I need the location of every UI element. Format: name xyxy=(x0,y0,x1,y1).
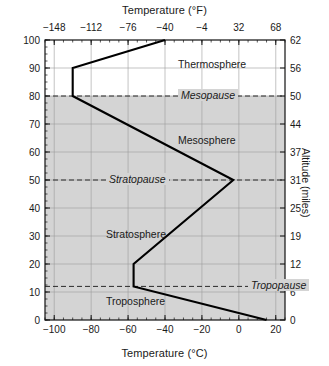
top-tick-label: −4 xyxy=(196,22,207,33)
right-tick-label: 19 xyxy=(290,231,316,242)
right-tick-label: 44 xyxy=(290,119,316,130)
right-tick-label: 0 xyxy=(290,315,316,326)
bottom-tick-label: 20 xyxy=(270,324,281,335)
top-tick-label: −148 xyxy=(43,22,66,33)
right-tick-label: 62 xyxy=(290,35,316,46)
bottom-tick-label: −40 xyxy=(157,324,174,335)
layer-label-stratosphere: Stratosphere xyxy=(106,228,166,240)
bottom-tick-label: −100 xyxy=(43,324,66,335)
left-tick-label: 40 xyxy=(18,203,40,214)
layer-label-troposphere: Troposphere xyxy=(106,295,165,307)
boundary-label-tropopause: Tropopause xyxy=(248,279,309,291)
bottom-tick-label: −20 xyxy=(193,324,210,335)
top-tick-label: 68 xyxy=(270,22,281,33)
right-tick-label: 50 xyxy=(290,91,316,102)
layer-label-mesosphere: Mesosphere xyxy=(178,134,236,146)
top-tick-label: −112 xyxy=(80,22,102,33)
atmosphere-temperature-chart: Temperature (°F) Temperature (°C) Altitu… xyxy=(0,0,329,366)
left-tick-label: 10 xyxy=(18,287,40,298)
right-tick-label: 31 xyxy=(290,175,316,186)
left-tick-label: 90 xyxy=(18,63,40,74)
top-tick-label: 32 xyxy=(233,22,244,33)
left-tick-label: 20 xyxy=(18,259,40,270)
top-tick-label: −76 xyxy=(120,22,137,33)
right-tick-label: 12 xyxy=(290,259,316,270)
boundary-label-mesopause: Mesopause xyxy=(178,89,238,101)
right-tick-label: 25 xyxy=(290,203,316,214)
bottom-tick-label: −80 xyxy=(83,324,100,335)
layer-label-thermosphere: Thermosphere xyxy=(178,58,246,70)
top-tick-label: −40 xyxy=(157,22,174,33)
boundary-label-stratopause: Stratopause xyxy=(106,173,169,185)
left-tick-label: 100 xyxy=(18,35,40,46)
left-tick-label: 0 xyxy=(18,315,40,326)
right-tick-label: 56 xyxy=(290,63,316,74)
bottom-tick-label: 0 xyxy=(236,324,242,335)
left-tick-label: 60 xyxy=(18,147,40,158)
bottom-tick-label: −60 xyxy=(120,324,137,335)
left-tick-label: 80 xyxy=(18,91,40,102)
right-tick-label: 37 xyxy=(290,147,316,158)
left-tick-label: 30 xyxy=(18,231,40,242)
left-tick-label: 50 xyxy=(18,175,40,186)
left-tick-label: 70 xyxy=(18,119,40,130)
